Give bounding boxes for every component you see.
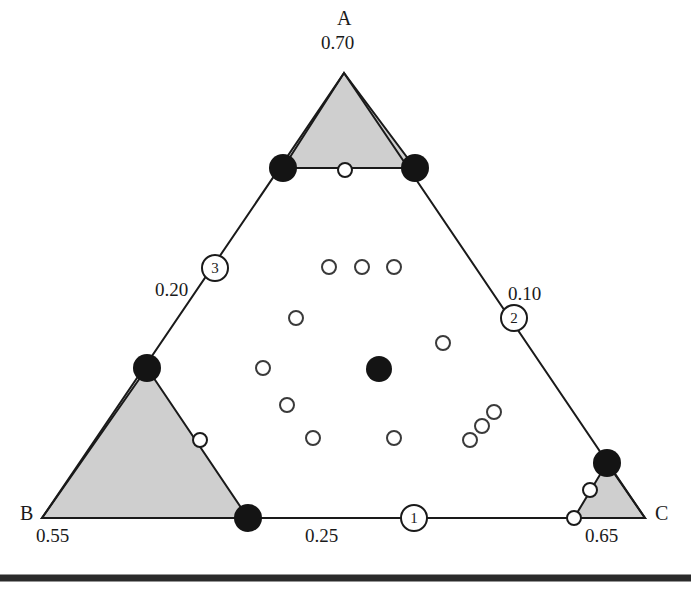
open-interior-4 [289,311,303,325]
open-interior-9 [387,431,401,445]
open-cluster-2 [475,419,489,433]
edge-value-left: 0.20 [155,280,188,299]
edge-marker-circles [202,255,527,531]
vertex-value-A: 0.70 [321,33,354,52]
ternary-diagram-canvas [0,0,691,593]
open-interior-7 [280,398,294,412]
vertex-label-B: B [20,503,33,523]
open-cluster-3 [487,405,501,419]
open-interior-3 [387,260,401,274]
open-apex-base-mid [338,163,352,177]
shaded-regions [42,73,645,518]
open-c-upper [583,483,597,497]
apex-A-subtriangle [283,73,415,168]
edge-value-right: 0.10 [508,284,541,303]
open-interior-5 [436,336,450,350]
vertex-dot-apex-right [401,154,429,182]
vertex-value-B: 0.55 [36,526,69,545]
open-c-lower [567,511,581,525]
open-interior-2 [355,260,369,274]
vertex-dot-baseline [234,504,262,532]
open-b-hypotenuse [193,433,207,447]
vertex-dot-right-corner [593,449,621,477]
vertex-dot-apex-left [269,154,297,182]
centroid-dot [366,356,392,382]
open-interior-8 [306,431,320,445]
edge-marker-3-number: 3 [207,261,223,276]
corner-B-subtriangle [42,368,248,518]
vertex-label-C: C [655,503,668,523]
open-data-points [193,163,597,525]
open-cluster-1 [463,433,477,447]
edge-marker-1-number: 1 [406,511,422,526]
open-interior-1 [322,260,336,274]
open-interior-6 [256,361,270,375]
edge-value-bottom: 0.25 [305,526,338,545]
vertex-value-C: 0.65 [585,526,618,545]
vertex-label-A: A [337,8,351,28]
vertex-dot-left-edge [133,354,161,382]
edge-marker-2-number: 2 [506,311,522,326]
